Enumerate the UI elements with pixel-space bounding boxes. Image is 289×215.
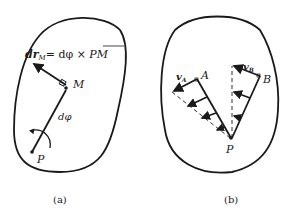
rigid-body-outline-b [161, 17, 278, 173]
label-vB: vB [243, 61, 254, 73]
rigid-body-outline-a [14, 18, 126, 172]
label-vA: vA [176, 71, 187, 83]
dashed-line-P-left [172, 92, 230, 138]
caption-a: (a) [53, 194, 67, 205]
label-B: B [262, 73, 271, 86]
point-P-b [229, 136, 233, 140]
point-P-a [30, 150, 34, 154]
caption-b: (b) [224, 194, 238, 205]
label-dphi: dφ [58, 111, 71, 122]
vector-dr-M [34, 64, 66, 85]
label-M: M [72, 78, 85, 91]
label-P-b: P [225, 143, 234, 156]
point-M [64, 86, 68, 90]
velocity-arrow-A-1 [188, 97, 207, 106]
equation-dr: drM= dφ × PM [25, 48, 109, 62]
figure-b: vA A vB B P (b) [161, 17, 278, 206]
figure-a: drM= dφ × PM M dφ P (a) [14, 18, 126, 205]
velocity-arrow-A-2 [202, 113, 216, 118]
rotation-arrowhead [29, 128, 35, 135]
label-A: A [200, 69, 209, 82]
label-P-a: P [36, 153, 45, 166]
velocity-arrow-B-1 [234, 92, 250, 98]
velocity-arrow-B-2 [234, 116, 241, 118]
line-P-B [232, 76, 260, 138]
kinematics-diagram: drM= dφ × PM M dφ P (a) vA A vB B P (b) [0, 0, 289, 215]
line-P-A [197, 79, 231, 138]
